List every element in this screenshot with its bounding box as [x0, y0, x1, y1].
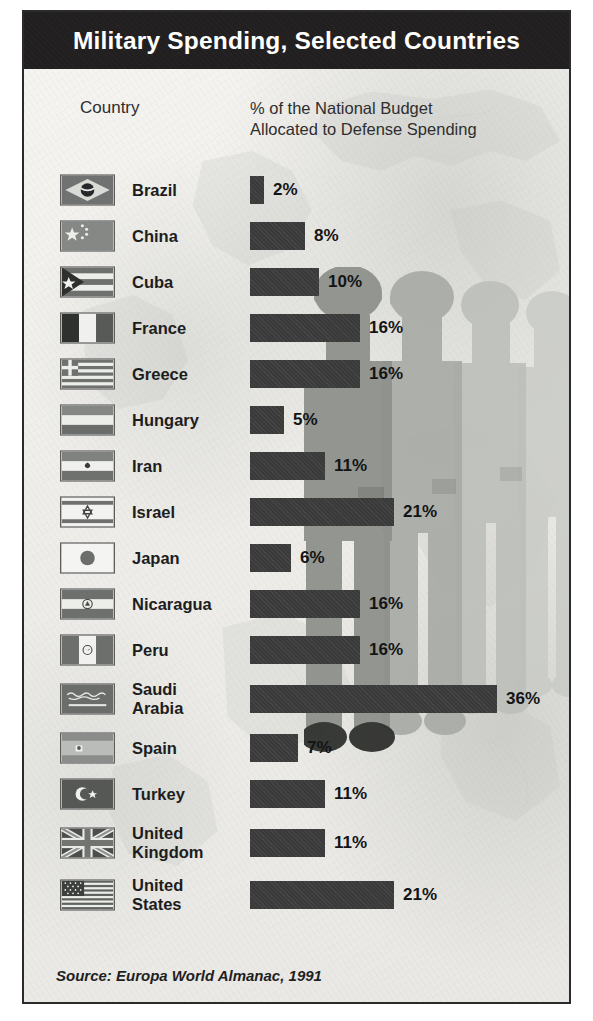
flag-france-icon	[60, 313, 115, 344]
bar-value-label: 11%	[334, 784, 367, 804]
bar	[250, 222, 305, 250]
flag-iran-icon	[60, 451, 115, 482]
country-label: Greece	[132, 365, 188, 384]
flag-nicaragua-icon	[60, 589, 115, 620]
chart-row: China8%	[24, 213, 569, 259]
bar	[250, 636, 360, 664]
country-label: China	[132, 227, 178, 246]
bar-value-label: 7%	[307, 738, 332, 758]
chart-row: Japan6%	[24, 535, 569, 581]
bar	[250, 685, 497, 713]
bar	[250, 780, 325, 808]
chart-row: Peru16%	[24, 627, 569, 673]
bar	[250, 314, 360, 342]
infographic-root: Military Spending, Selected Countries Co…	[0, 0, 593, 1021]
country-label: Iran	[132, 457, 162, 476]
country-label: Peru	[132, 641, 169, 660]
bar-value-label: 6%	[300, 548, 325, 568]
chart-row: Spain7%	[24, 725, 569, 771]
flag-israel-icon	[60, 497, 115, 528]
chart-row: United Kingdom11%	[24, 817, 569, 869]
bar-value-label: 8%	[314, 226, 339, 246]
bar-value-label: 16%	[369, 318, 403, 338]
country-label: Japan	[132, 549, 180, 568]
flag-brazil-icon	[60, 175, 115, 206]
country-label: Saudi Arabia	[132, 680, 183, 718]
flag-united-states-icon	[60, 880, 115, 911]
bar	[250, 268, 319, 296]
chart-row: Nicaragua16%	[24, 581, 569, 627]
chart-row: France16%	[24, 305, 569, 351]
chart-panel: Military Spending, Selected Countries Co…	[22, 10, 571, 1004]
bar	[250, 406, 284, 434]
chart-row: Brazil2%	[24, 167, 569, 213]
country-label: Hungary	[132, 411, 199, 430]
bar-value-label: 5%	[293, 410, 318, 430]
bar	[250, 881, 394, 909]
bar	[250, 498, 394, 526]
chart-row: Israel21%	[24, 489, 569, 535]
country-label: Israel	[132, 503, 175, 522]
country-label: Nicaragua	[132, 595, 212, 614]
flag-japan-icon	[60, 543, 115, 574]
chart-row: Greece16%	[24, 351, 569, 397]
bar	[250, 829, 325, 857]
bar	[250, 176, 264, 204]
country-label: Turkey	[132, 785, 185, 804]
flag-united-kingdom-icon	[60, 828, 115, 859]
bar	[250, 360, 360, 388]
flag-turkey-icon	[60, 779, 115, 810]
flag-peru-icon	[60, 635, 115, 666]
bar-value-label: 36%	[506, 689, 540, 709]
flag-china-icon	[60, 221, 115, 252]
chart-row: United States21%	[24, 869, 569, 921]
bar-value-label: 21%	[403, 885, 437, 905]
chart-row: Turkey11%	[24, 771, 569, 817]
page-title: Military Spending, Selected Countries	[73, 27, 520, 55]
country-label: Cuba	[132, 273, 173, 292]
bar-value-label: 11%	[334, 456, 367, 476]
flag-saudi-arabia-icon	[60, 684, 115, 715]
chart-row: Iran11%	[24, 443, 569, 489]
bar-value-label: 16%	[369, 594, 403, 614]
bar-value-label: 16%	[369, 640, 403, 660]
flag-greece-icon	[60, 359, 115, 390]
bar-value-label: 2%	[273, 180, 298, 200]
chart-row: Saudi Arabia36%	[24, 673, 569, 725]
bar-value-label: 11%	[334, 833, 367, 853]
bar	[250, 452, 325, 480]
country-label: Spain	[132, 739, 177, 758]
bar-value-label: 21%	[403, 502, 437, 522]
chart-row: Hungary5%	[24, 397, 569, 443]
flag-spain-icon	[60, 733, 115, 764]
flag-cuba-icon	[60, 267, 115, 298]
chart-row: Cuba10%	[24, 259, 569, 305]
bar	[250, 734, 298, 762]
country-label: Brazil	[132, 181, 177, 200]
country-label: France	[132, 319, 186, 338]
title-bar: Military Spending, Selected Countries	[24, 12, 569, 69]
column-header-metric: % of the National Budget Allocated to De…	[250, 98, 477, 140]
bar-value-label: 16%	[369, 364, 403, 384]
flag-hungary-icon	[60, 405, 115, 436]
bar	[250, 590, 360, 618]
source-note: Source: Europa World Almanac, 1991	[56, 967, 322, 984]
country-label: United Kingdom	[132, 824, 204, 862]
bar	[250, 544, 291, 572]
country-label: United States	[132, 876, 183, 914]
bar-value-label: 10%	[328, 272, 362, 292]
column-header-country: Country	[80, 98, 140, 118]
